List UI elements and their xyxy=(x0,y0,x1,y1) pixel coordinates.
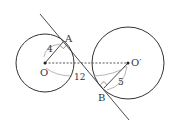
label-distance-12: 12 xyxy=(74,72,85,82)
tangent-line xyxy=(40,14,129,120)
arc-radius-5 xyxy=(107,67,127,90)
label-radius-4: 4 xyxy=(47,44,53,54)
arc-distance-12-right xyxy=(94,66,127,76)
center-o-prime-dot xyxy=(127,62,130,65)
label-radius-5: 5 xyxy=(118,77,124,87)
label-a: A xyxy=(64,33,73,44)
label-b: B xyxy=(98,92,105,103)
center-o-dot xyxy=(44,62,47,65)
arc-distance-12-left xyxy=(46,68,72,76)
two-circles-tangent-diagram: O O′ A B 4 5 12 xyxy=(0,0,170,127)
right-angle-b xyxy=(101,82,108,86)
label-o: O xyxy=(40,67,48,78)
right-angle-a xyxy=(60,45,67,49)
label-o-prime: O′ xyxy=(131,57,142,68)
